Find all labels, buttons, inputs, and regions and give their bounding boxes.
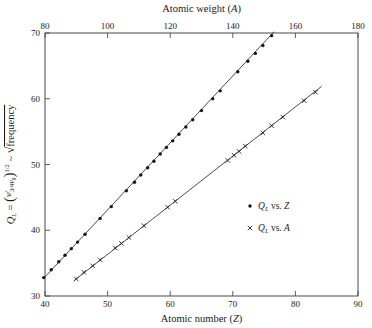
data-point-x — [173, 199, 177, 203]
data-point-x — [98, 258, 102, 262]
data-series — [42, 32, 322, 281]
data-point-dot — [133, 181, 136, 184]
data-point-dot — [98, 217, 101, 220]
data-point-x — [165, 205, 169, 209]
bottom-axis-tick-label: 60 — [166, 299, 176, 309]
data-point-dot — [42, 276, 45, 279]
plot-border — [45, 33, 358, 296]
data-point-x — [237, 149, 241, 153]
data-point-x — [281, 115, 285, 119]
data-point-x — [269, 124, 273, 128]
series-ql-vs-a — [74, 86, 322, 281]
chart-figure: 405060708090Atomic number (Z)80100120140… — [0, 0, 372, 328]
data-point-dot — [70, 247, 73, 250]
data-point-dot — [158, 152, 161, 155]
data-point-x — [142, 223, 146, 227]
data-point-x — [127, 235, 131, 239]
data-point-dot — [184, 125, 187, 128]
data-point-dot — [211, 97, 214, 100]
data-point-dot — [270, 34, 273, 37]
data-point-x — [226, 158, 230, 162]
top-axis-tick-label: 80 — [41, 21, 51, 31]
top-axis: 80100120140160180 — [41, 21, 366, 38]
data-point-dot — [219, 89, 222, 92]
data-point-dot — [165, 146, 168, 149]
bottom-axis-tick-label: 40 — [41, 299, 51, 309]
bottom-axis-title: Atomic number (Z) — [161, 313, 243, 325]
data-point-dot — [63, 254, 66, 257]
data-point-dot — [246, 60, 249, 63]
left-axis: 3040506070 — [31, 28, 50, 301]
bottom-axis-tick-label: 50 — [103, 299, 113, 309]
data-point-dot — [57, 260, 60, 263]
left-axis-tick-label: 40 — [31, 225, 41, 235]
top-axis-tick-label: 160 — [289, 21, 303, 31]
data-point-dot — [152, 160, 155, 163]
left-axis-tick-label: 60 — [31, 94, 41, 104]
top-axis-tick-label: 140 — [226, 21, 240, 31]
data-point-dot — [254, 52, 257, 55]
bottom-axis-tick-label: 80 — [291, 299, 301, 309]
data-point-dot — [146, 166, 149, 169]
data-point-dot — [200, 109, 203, 112]
moseley-law-chart: 405060708090Atomic number (Z)80100120140… — [0, 0, 372, 328]
legend-label-ql-vs-z: QL vs. Z — [258, 201, 290, 212]
data-point-dot — [76, 240, 79, 243]
data-point-x — [261, 131, 265, 135]
data-point-dot — [139, 173, 142, 176]
legend-marker-dot — [248, 204, 251, 207]
data-point-dot — [83, 232, 86, 235]
data-point-dot — [191, 118, 194, 121]
data-point-dot — [125, 189, 128, 192]
data-point-dot — [110, 205, 113, 208]
top-axis-tick-label: 180 — [351, 21, 365, 31]
top-axis-title: Atomic weight (A) — [162, 3, 241, 15]
top-axis-tick-label: 120 — [163, 21, 177, 31]
data-point-x — [243, 144, 247, 148]
y-axis-title-group: QL = (v⁄3⁄4v0)1/2 ~ √frequency — [1, 104, 18, 224]
plot-frame — [45, 33, 358, 296]
data-point-x — [232, 153, 236, 157]
top-axis-tick-label: 100 — [101, 21, 115, 31]
legend-label-ql-vs-a: QL vs. A — [258, 223, 290, 234]
series-ql-vs-z — [42, 32, 274, 280]
legend-marker-x — [248, 226, 252, 230]
data-point-x — [74, 277, 78, 281]
bottom-axis-tick-label: 70 — [228, 299, 238, 309]
chart-legend: QL vs. ZQL vs. A — [248, 201, 290, 234]
y-axis-title: QL = (v⁄3⁄4v0)1/2 ~ √frequency — [1, 104, 18, 224]
left-axis-tick-label: 50 — [31, 160, 41, 170]
data-point-dot — [177, 133, 180, 136]
data-point-dot — [50, 268, 53, 271]
data-point-x — [119, 241, 123, 245]
y-axis-formula: QL = (v⁄3⁄4v0)1/2 ~ √frequency — [1, 104, 18, 224]
data-point-x — [113, 246, 117, 250]
bottom-axis-tick-label: 90 — [354, 299, 364, 309]
data-point-dot — [261, 44, 264, 47]
data-point-dot — [171, 139, 174, 142]
data-point-dot — [236, 70, 239, 73]
left-axis-tick-label: 70 — [31, 28, 41, 38]
left-axis-tick-label: 30 — [31, 291, 41, 301]
bottom-axis: 405060708090 — [41, 291, 364, 309]
data-point-x — [90, 264, 94, 268]
